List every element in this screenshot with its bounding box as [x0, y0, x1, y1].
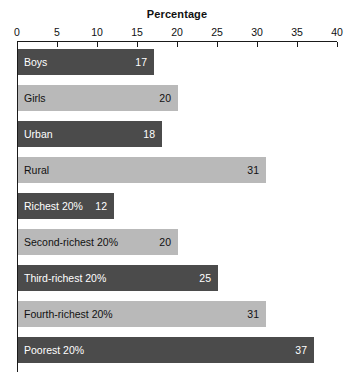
bar-category-label: Girls	[24, 92, 46, 104]
bar-value-label: 20	[159, 92, 171, 104]
x-axis-tick-label: 5	[54, 26, 60, 38]
bar-value-label: 20	[159, 236, 171, 248]
bar: Second-richest 20%20	[18, 229, 178, 255]
bar-row: Boys17	[18, 49, 154, 75]
bar-value-label: 18	[143, 128, 155, 140]
x-axis-tick-label: 35	[291, 26, 303, 38]
bar-value-label: 12	[95, 200, 107, 212]
bar-row: Third-richest 20%25	[18, 265, 218, 291]
bar: Poorest 20%37	[18, 337, 314, 363]
bar: Richest 20%12	[18, 193, 114, 219]
percentage-bar-chart: Percentage 0510152025303540 Boys17Girls2…	[0, 0, 344, 384]
bar: Third-richest 20%25	[18, 265, 218, 291]
bar-row: Second-richest 20%20	[18, 229, 178, 255]
bar-value-label: 17	[135, 56, 147, 68]
x-axis-tick-label: 20	[171, 26, 183, 38]
x-axis-tick-mark	[217, 42, 218, 47]
bar-category-label: Richest 20%	[24, 200, 83, 212]
x-axis-tick-label: 10	[91, 26, 103, 38]
x-axis-tick-label: 30	[251, 26, 263, 38]
bar-category-label: Second-richest 20%	[24, 236, 118, 248]
x-axis-tick-mark	[177, 42, 178, 47]
bar-category-label: Fourth-richest 20%	[24, 308, 113, 320]
bar-row: Fourth-richest 20%31	[18, 301, 266, 327]
bar: Rural31	[18, 157, 266, 183]
bar-value-label: 31	[247, 164, 259, 176]
bar-category-label: Urban	[24, 128, 53, 140]
x-axis-tick-mark	[257, 42, 258, 47]
bar-value-label: 31	[247, 308, 259, 320]
bar-value-label: 37	[295, 344, 307, 356]
x-axis-tick-label: 0	[14, 26, 20, 38]
bar-category-label: Poorest 20%	[24, 344, 84, 356]
bar-category-label: Third-richest 20%	[24, 272, 106, 284]
bar-row: Urban18	[18, 121, 162, 147]
x-axis-tick-mark	[297, 42, 298, 47]
bar: Fourth-richest 20%31	[18, 301, 266, 327]
bar-row: Girls20	[18, 85, 178, 111]
x-axis-tick-mark	[97, 42, 98, 47]
bar-row: Rural31	[18, 157, 266, 183]
chart-title: Percentage	[17, 8, 337, 21]
x-axis-tick-mark	[57, 42, 58, 47]
x-axis-tick-mark	[337, 42, 338, 47]
bar: Boys17	[18, 49, 154, 75]
x-axis: 0510152025303540	[0, 26, 344, 50]
x-axis-tick-label: 40	[331, 26, 343, 38]
bar: Urban18	[18, 121, 162, 147]
x-axis-tick-label: 25	[211, 26, 223, 38]
bar-row: Richest 20%12	[18, 193, 114, 219]
x-axis-tick-label: 15	[131, 26, 143, 38]
bar-value-label: 25	[199, 272, 211, 284]
bar-category-label: Rural	[24, 164, 49, 176]
x-axis-tick-mark	[137, 42, 138, 47]
bar: Girls20	[18, 85, 178, 111]
bar-category-label: Boys	[24, 56, 47, 68]
bar-row: Poorest 20%37	[18, 337, 314, 363]
plot-area: Boys17Girls20Urban18Rural31Richest 20%12…	[18, 49, 344, 381]
